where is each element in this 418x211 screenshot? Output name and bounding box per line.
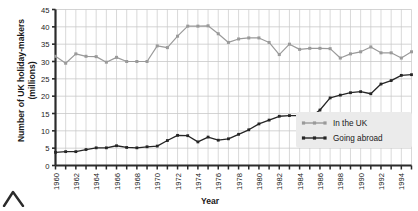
legend-swatch-marker [302, 136, 305, 139]
data-point-marker [125, 146, 128, 149]
y-axis-tick-label: 45 [41, 6, 49, 15]
x-axis-tick-label: 1974 [194, 173, 203, 190]
data-point-marker [400, 57, 403, 60]
data-point-marker [400, 74, 403, 77]
data-point-marker [308, 47, 311, 50]
data-point-marker [166, 139, 169, 142]
y-axis-tick-label: 5 [45, 144, 49, 153]
x-axis-tick-label: 1978 [235, 173, 244, 190]
data-point-marker [379, 51, 382, 54]
data-point-marker [247, 128, 250, 131]
y-axis-tick-label: 40 [41, 23, 49, 32]
x-axis-tick-label: 1964 [92, 173, 101, 190]
x-axis-tick-label: 1972 [174, 173, 183, 190]
legend-swatch-marker [302, 121, 305, 124]
data-point-marker [380, 83, 383, 86]
data-point-marker [176, 35, 179, 38]
data-point-marker [125, 60, 128, 63]
data-point-marker [135, 60, 138, 63]
data-point-marker [207, 136, 210, 139]
data-point-marker [64, 150, 67, 153]
data-point-marker [156, 145, 159, 148]
x-axis-tick-label: 1980 [255, 173, 264, 190]
data-point-marker [85, 148, 88, 151]
legend-swatch-marker [313, 136, 316, 139]
data-point-marker [288, 43, 291, 46]
data-point-marker [227, 137, 230, 140]
data-point-marker [329, 97, 332, 100]
data-point-marker [74, 52, 77, 55]
data-point-marker [278, 53, 281, 56]
data-point-marker [95, 55, 98, 58]
legend-item-label: In the UK [333, 119, 368, 128]
y-axis-title: Number of UK holiday-makers (millions) [16, 0, 37, 165]
legend-swatch-marker [323, 136, 326, 139]
data-point-marker [196, 25, 199, 28]
y-axis-tick-label: 20 [41, 92, 49, 101]
data-point-marker [298, 48, 301, 51]
data-point-marker [268, 119, 271, 122]
data-point-marker [105, 61, 108, 64]
y-axis-tick-label: 0 [45, 162, 49, 171]
x-axis-tick-label: 1966 [113, 173, 122, 190]
x-axis-tick-label: 1968 [133, 173, 142, 190]
data-point-marker [207, 24, 210, 27]
data-point-marker [217, 32, 220, 35]
x-axis-title: Year [180, 196, 240, 206]
y-axis-tick-label: 15 [41, 110, 49, 119]
x-axis-tick-label: 1986 [316, 173, 325, 190]
data-point-marker [146, 60, 149, 63]
y-axis-title-line1: Number of UK holiday-makers [16, 0, 27, 165]
data-point-marker [85, 55, 88, 58]
data-point-marker [247, 36, 250, 39]
data-point-marker [257, 36, 260, 39]
x-axis-tick-label: 1960 [52, 173, 61, 190]
data-point-marker [74, 150, 77, 153]
data-point-marker [410, 73, 413, 76]
data-point-marker [217, 139, 220, 142]
legend-swatch-marker [323, 121, 326, 124]
data-point-marker [390, 79, 393, 82]
y-axis-tick-label: 10 [41, 127, 49, 136]
data-point-marker [197, 141, 200, 144]
data-point-marker [258, 123, 261, 126]
data-point-marker [95, 146, 98, 149]
chart-figure: 0510152025303540451960196219641966196819… [0, 0, 418, 211]
data-point-marker [176, 134, 179, 137]
data-point-marker [319, 109, 322, 112]
legend-item-label: Going abroad [333, 134, 383, 143]
data-point-marker [135, 146, 138, 149]
data-point-marker [349, 52, 352, 55]
data-point-marker [390, 51, 393, 54]
y-axis-tick-label: 35 [41, 40, 49, 49]
data-point-marker [186, 134, 189, 137]
data-point-marker [115, 144, 118, 147]
data-point-marker [115, 56, 118, 59]
data-point-marker [329, 47, 332, 50]
data-point-marker [339, 94, 342, 97]
x-axis-tick-label: 1976 [214, 173, 223, 190]
data-point-marker [288, 114, 291, 117]
x-axis-tick-label: 1994 [397, 173, 406, 190]
data-point-marker [359, 90, 362, 93]
data-point-marker [105, 146, 108, 149]
y-axis-title-line2: (millions) [26, 0, 37, 165]
data-point-marker [278, 115, 281, 118]
data-point-marker [146, 145, 149, 148]
data-point-marker [318, 47, 321, 50]
data-point-marker [54, 55, 57, 58]
data-point-marker [186, 25, 189, 28]
y-axis-tick-label: 25 [41, 75, 49, 84]
line-chart-svg: 0510152025303540451960196219641966196819… [0, 0, 418, 211]
data-point-marker [237, 133, 240, 136]
data-point-marker [339, 57, 342, 60]
x-axis-tick-label: 1982 [275, 173, 284, 190]
x-axis-tick-label: 1970 [153, 173, 162, 190]
data-point-marker [268, 41, 271, 44]
data-point-marker [227, 41, 230, 44]
data-point-marker [64, 62, 67, 65]
data-point-marker [156, 44, 159, 47]
data-point-marker [54, 151, 57, 154]
data-point-marker [166, 46, 169, 49]
x-axis-tick-label: 1962 [72, 173, 81, 190]
